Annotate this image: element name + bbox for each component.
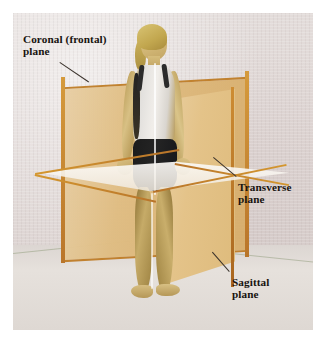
figure-right-foot [156, 284, 180, 296]
label-coronal-plane: Coronal (frontal) plane [23, 33, 107, 58]
label-transverse-plane: Transverse plane [238, 181, 292, 206]
anatomical-planes-figure: Coronal (frontal) plane Transverse plane… [0, 0, 324, 351]
sagittal-midline-lower [151, 193, 153, 289]
figure-hair [137, 24, 167, 50]
figure-left-foot [131, 285, 153, 298]
label-sagittal-plane: Sagittal plane [232, 276, 269, 301]
figure-caption-clipped [10, 340, 320, 351]
